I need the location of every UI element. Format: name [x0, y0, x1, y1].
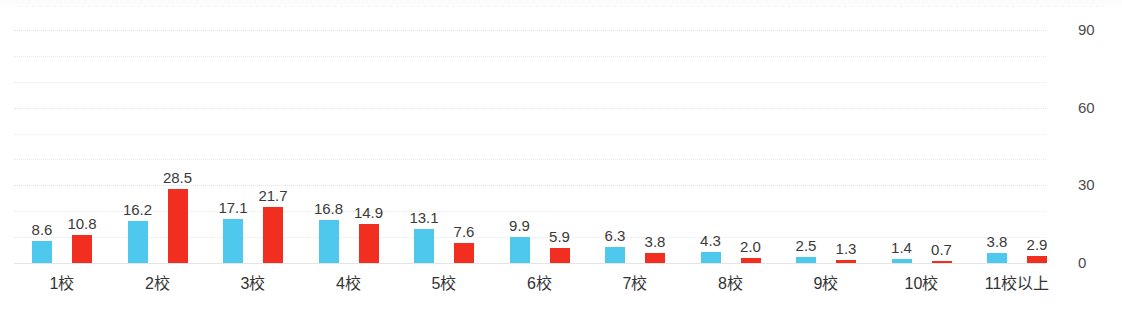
bar-rect	[645, 253, 665, 263]
bar-value-label: 3.8	[631, 233, 679, 250]
bar-value-label: 10.8	[58, 215, 106, 232]
y-tick-label: 30	[1078, 176, 1118, 193]
bar-value-label: 14.9	[345, 204, 393, 221]
bar-group: 1.40.710校	[880, 0, 964, 313]
bar-value-label: 0.7	[918, 241, 966, 258]
plot-area: 0306090 8.610.81校16.228.52校17.121.73校16.…	[0, 0, 1060, 313]
category-label: 1校	[20, 270, 104, 294]
bar-rect	[892, 259, 912, 263]
bar: 8.6	[32, 241, 52, 263]
bar-value-label: 1.3	[822, 240, 870, 257]
bar-rect	[550, 248, 570, 263]
bar: 3.8	[987, 253, 1007, 263]
category-label: 7校	[593, 270, 677, 294]
bar-group: 13.17.65校	[402, 0, 486, 313]
bar-rect	[454, 243, 474, 263]
bar-group: 4.32.08校	[689, 0, 773, 313]
bar: 28.5	[168, 189, 188, 263]
bar: 13.1	[414, 229, 434, 263]
bar-rect	[32, 241, 52, 263]
bar-rect	[128, 221, 148, 263]
bar-value-label: 5.9	[536, 228, 584, 245]
bar-rect	[168, 189, 188, 263]
bar: 17.1	[223, 219, 243, 263]
bar-rect	[510, 237, 530, 263]
bar: 3.8	[645, 253, 665, 263]
bar-rect	[701, 252, 721, 263]
category-label: 5校	[402, 270, 486, 294]
bar-rect	[319, 220, 339, 263]
bar-rect	[414, 229, 434, 263]
bar: 10.8	[72, 235, 92, 263]
bar-value-label: 7.6	[440, 223, 488, 240]
category-label: 8校	[689, 270, 773, 294]
bar-rect	[836, 260, 856, 263]
bar-value-label: 28.5	[154, 169, 202, 186]
bar-rect	[263, 207, 283, 263]
category-label: 4校	[307, 270, 391, 294]
bar: 0.7	[932, 261, 952, 263]
bar-value-label: 2.0	[727, 238, 775, 255]
bar: 6.3	[605, 247, 625, 263]
bar-value-label: 16.2	[114, 201, 162, 218]
bar-rect	[605, 247, 625, 263]
bar: 1.4	[892, 259, 912, 263]
bar-rect	[741, 258, 761, 263]
bar-rect	[796, 257, 816, 263]
bar: 2.5	[796, 257, 816, 263]
bar-rect	[72, 235, 92, 263]
bar: 16.8	[319, 220, 339, 263]
bar-group: 8.610.81校	[20, 0, 104, 313]
bar-chart: 0306090 8.610.81校16.228.52校17.121.73校16.…	[0, 0, 1122, 313]
bar: 14.9	[359, 224, 379, 263]
category-label: 6校	[498, 270, 582, 294]
bar-rect	[932, 261, 952, 263]
bar-rect	[223, 219, 243, 263]
bar-group: 9.95.96校	[498, 0, 582, 313]
bar: 2.9	[1027, 256, 1047, 264]
y-tick-label: 60	[1078, 99, 1118, 116]
category-label: 3校	[211, 270, 295, 294]
bar: 2.0	[741, 258, 761, 263]
bar: 4.3	[701, 252, 721, 263]
category-label: 10校	[880, 270, 964, 294]
bar: 5.9	[550, 248, 570, 263]
bar: 9.9	[510, 237, 530, 263]
bar-group: 2.51.39校	[784, 0, 868, 313]
bar-value-label: 21.7	[249, 187, 297, 204]
bar-group: 16.814.94校	[307, 0, 391, 313]
bar: 7.6	[454, 243, 474, 263]
bar: 16.2	[128, 221, 148, 263]
bar-group: 6.33.87校	[593, 0, 677, 313]
bar-value-label: 2.9	[1013, 236, 1061, 253]
y-tick-label: 90	[1078, 21, 1118, 38]
y-tick-label: 0	[1078, 254, 1118, 271]
bar: 1.3	[836, 260, 856, 263]
bar-group: 16.228.52校	[116, 0, 200, 313]
category-label: 9校	[784, 270, 868, 294]
category-label: 2校	[116, 270, 200, 294]
category-label: 11校以上	[975, 270, 1059, 294]
bar-rect	[359, 224, 379, 263]
bar: 21.7	[263, 207, 283, 263]
bar-rect	[1027, 256, 1047, 264]
bar-group: 17.121.73校	[211, 0, 295, 313]
bar-rect	[987, 253, 1007, 263]
bar-group: 3.82.911校以上	[975, 0, 1059, 313]
